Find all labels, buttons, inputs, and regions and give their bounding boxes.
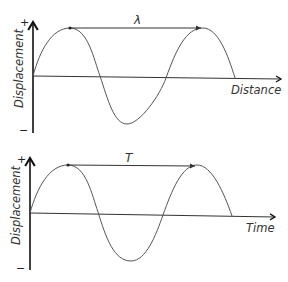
wavelength-diagram: λ + − Displacement Distance bbox=[12, 13, 281, 137]
y-minus-sign: − bbox=[19, 124, 28, 137]
x-axis bbox=[33, 76, 281, 79]
period-span-arrow bbox=[68, 165, 195, 166]
y-minus-sign: − bbox=[16, 262, 25, 275]
period-diagram: T + − Displacement Time bbox=[9, 151, 275, 275]
x-axis-label: Time bbox=[246, 221, 275, 235]
x-axis-label: Distance bbox=[231, 83, 281, 97]
y-axis-label: Displacement bbox=[9, 165, 23, 245]
span-label: λ bbox=[133, 13, 141, 27]
span-label: T bbox=[125, 151, 134, 165]
y-plus-sign: + bbox=[20, 16, 29, 29]
y-plus-sign: + bbox=[17, 153, 26, 166]
y-axis-label: Displacement bbox=[12, 28, 26, 108]
wave-diagrams: λ + − Displacement Distance T + − Displa… bbox=[0, 0, 288, 282]
x-axis bbox=[30, 213, 275, 217]
